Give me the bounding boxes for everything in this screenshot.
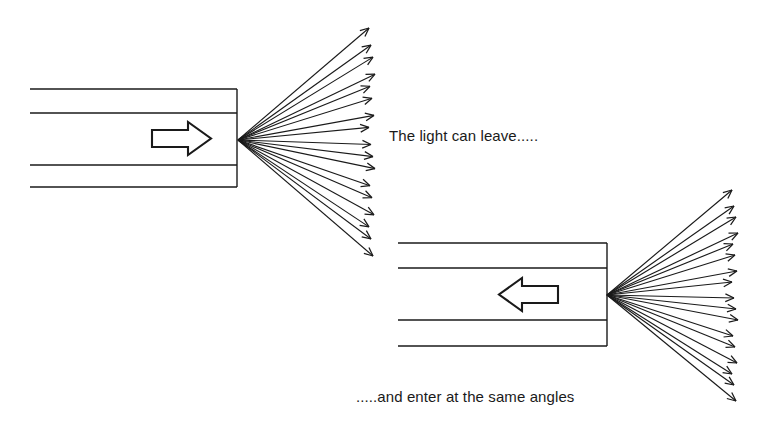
ray-arrowhead-barb — [723, 279, 732, 282]
ray-line — [238, 140, 371, 239]
ray-arrowhead-barb — [728, 362, 737, 363]
ray-line — [238, 45, 371, 140]
ray-arrowhead-barb — [728, 269, 737, 271]
optics-diagram-svg — [0, 0, 757, 434]
ray-arrowhead-barb — [363, 97, 372, 98]
ray-arrowhead-barb — [366, 169, 375, 171]
ray-arrowhead-barb — [724, 336, 733, 337]
ray-line — [607, 244, 733, 295]
ray-line — [607, 295, 737, 363]
caption-light-can-leave: The light can leave..... — [389, 127, 538, 144]
ray-line — [238, 140, 369, 227]
caption-enter-same-angles: .....and enter at the same angles — [356, 388, 574, 405]
block-arrow-left-icon — [499, 278, 558, 311]
ray-line — [607, 295, 735, 347]
ray-arrowhead-barb — [364, 157, 373, 160]
ray-line — [607, 206, 734, 295]
ray-line — [607, 295, 736, 401]
ray-arrowhead-barb — [361, 186, 370, 187]
block-arrow-right-icon — [152, 122, 211, 155]
top-ray-fan — [238, 28, 375, 256]
ray-arrowhead-barb — [726, 254, 735, 255]
ray-line — [238, 140, 370, 186]
ray-line — [238, 140, 374, 215]
ray-line — [238, 140, 373, 256]
bottom-ray-fan — [607, 190, 738, 401]
ray-line — [607, 295, 734, 385]
ray-arrowhead-barb — [362, 145, 371, 149]
ray-line — [238, 86, 370, 140]
diagram-canvas: The light can leave..... .....and enter … — [0, 0, 757, 434]
ray-line — [607, 233, 738, 295]
ray-arrowhead-barb — [725, 298, 734, 302]
ray-arrowhead-barb — [365, 214, 374, 215]
ray-arrowhead-barb — [729, 320, 738, 322]
ray-arrowhead-barb — [727, 309, 736, 312]
ray-line — [607, 190, 732, 295]
ray-arrowhead-barb — [360, 124, 369, 127]
ray-line — [238, 28, 369, 140]
ray-line — [238, 74, 375, 140]
ray-arrowhead-barb — [365, 113, 374, 115]
